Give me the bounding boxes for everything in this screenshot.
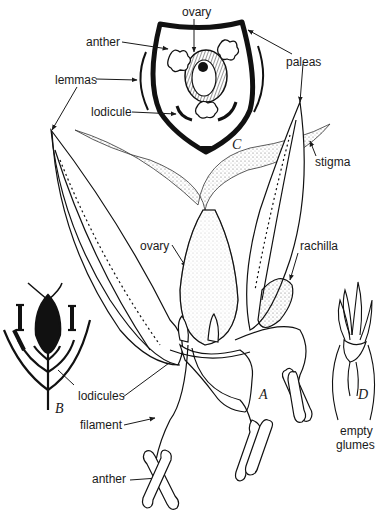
panel-label-d: D: [358, 388, 368, 402]
label-lodicules: lodicules: [78, 390, 125, 402]
label-filament: filament: [80, 419, 122, 431]
label-rachilla: rachilla: [300, 240, 338, 252]
label-anther-top: anther: [86, 36, 120, 48]
panel-label-a: A: [259, 388, 268, 402]
label-lemmas: lemmas: [55, 74, 97, 86]
floret-a: [51, 102, 330, 509]
panel-label-c: C: [232, 138, 241, 152]
label-empty: empty: [340, 425, 373, 437]
label-anther-bottom: anther: [92, 473, 126, 485]
spikelet-d: [332, 282, 374, 420]
label-ovary-top: ovary: [182, 6, 211, 18]
label-stigma: stigma: [315, 156, 350, 168]
panel-label-b: B: [55, 402, 64, 416]
label-glumes: glumes: [336, 439, 375, 451]
label-ovary-mid: ovary: [140, 240, 169, 252]
cross-section-c: [140, 22, 263, 154]
label-paleas: paleas: [286, 56, 321, 68]
label-lodicule: lodicule: [91, 106, 132, 118]
grass-floret-diagram: ovary anther paleas lemmas lodicule C st…: [0, 0, 380, 520]
